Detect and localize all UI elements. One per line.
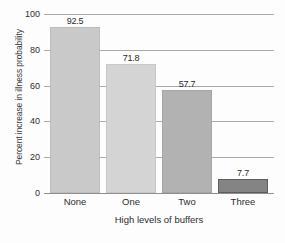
y-tick-label: 20: [18, 152, 40, 162]
bar-group-three: 7.7: [218, 14, 268, 193]
x-tick-label-two: Two: [162, 196, 212, 207]
bar-group-none: 92.5: [50, 14, 100, 193]
y-tick-label: 0: [18, 188, 40, 198]
x-tick-label-none: None: [50, 196, 100, 207]
plot-area: 92.5 71.8 57.7 7.7: [44, 14, 274, 193]
bar-group-two: 57.7: [162, 14, 212, 193]
bar-three: [218, 179, 268, 193]
bar-value-label: 7.7: [218, 168, 268, 178]
y-tick-label: 100: [18, 9, 40, 19]
bar-chart: Percent increase in illness probability …: [0, 0, 285, 243]
bar-group-one: 71.8: [106, 14, 156, 193]
x-tick-label-three: Three: [218, 196, 268, 207]
y-axis-tick-labels: 100 80 60 40 20 0: [14, 0, 40, 243]
y-tick-label: 60: [18, 81, 40, 91]
bar-value-label: 57.7: [162, 79, 212, 89]
bar-two: [162, 90, 212, 193]
x-tick-label-one: One: [106, 196, 156, 207]
bar-one: [106, 64, 156, 193]
bar-value-label: 71.8: [106, 53, 156, 63]
gridline-baseline-0: [44, 193, 274, 194]
y-tick-label: 80: [18, 45, 40, 55]
y-tick-label: 40: [18, 116, 40, 126]
bar-none: [50, 27, 100, 193]
bar-value-label: 92.5: [50, 16, 100, 26]
x-axis-title: High levels of buffers: [44, 214, 274, 225]
bar-series: 92.5 71.8 57.7 7.7: [44, 14, 274, 193]
x-axis-tick-labels: None One Two Three: [44, 196, 274, 207]
